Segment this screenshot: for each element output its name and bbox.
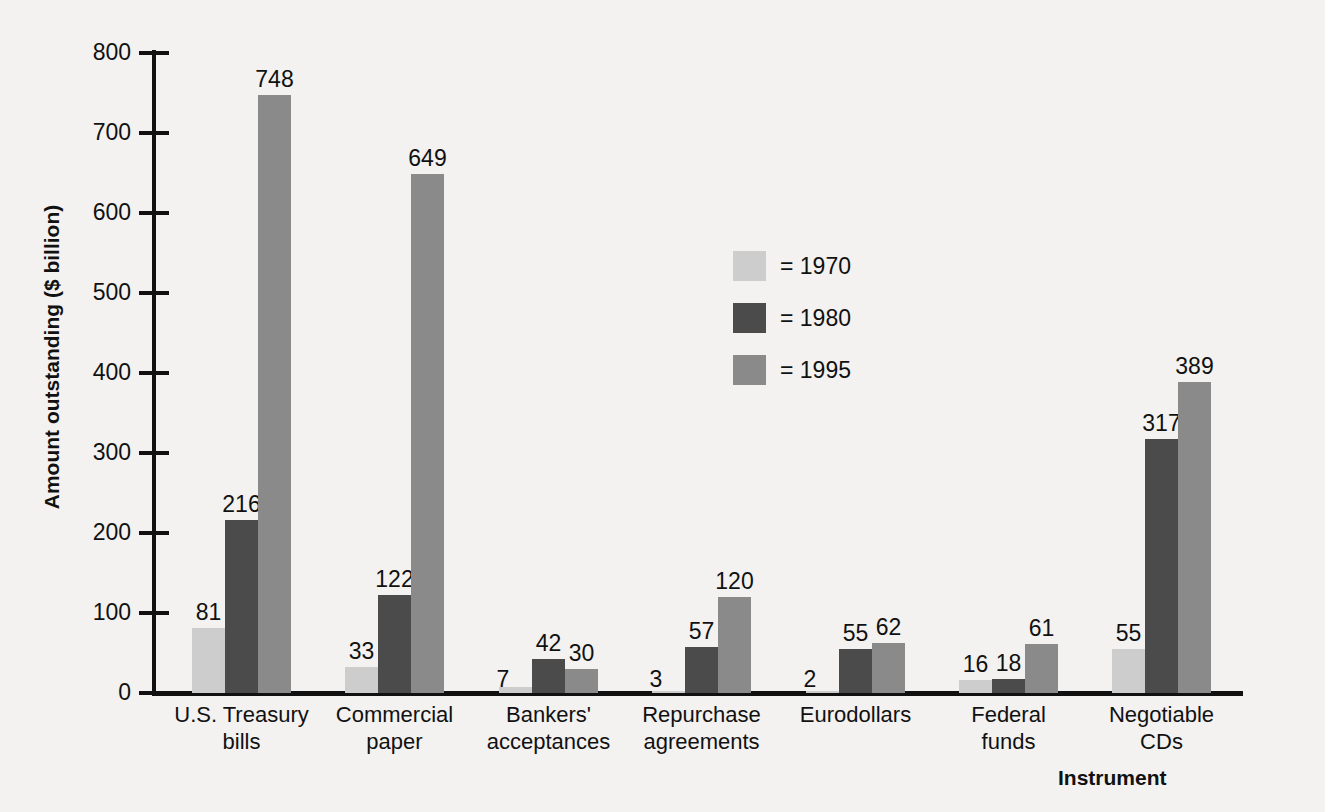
bar-group: 55317389 [1112, 53, 1211, 693]
bar-value-label: 57 [689, 620, 715, 643]
bar-value-label: 3 [650, 668, 663, 691]
bar-slot: 30 [565, 53, 598, 693]
legend-item[interactable]: = 1995 [733, 350, 851, 390]
bar[interactable] [1178, 382, 1211, 693]
bar-value-label: 62 [876, 616, 902, 639]
bar-value-label: 7 [497, 668, 510, 691]
bar-value-label: 216 [222, 493, 260, 516]
bar-slot: 122 [378, 53, 411, 693]
bar[interactable] [378, 595, 411, 693]
bar-slot: 7 [499, 53, 532, 693]
bar-slot: 389 [1178, 53, 1211, 693]
bar[interactable] [1145, 439, 1178, 693]
legend-label: = 1980 [780, 305, 851, 332]
bar-slot: 18 [992, 53, 1025, 693]
bar-value-label: 30 [569, 642, 595, 665]
bar[interactable] [959, 680, 992, 693]
bar-group: 74230 [499, 53, 598, 693]
bar-slot: 62 [872, 53, 905, 693]
chart-legend: = 1970= 1980= 1995 [733, 246, 851, 402]
bar[interactable] [718, 597, 751, 693]
bar-slot: 16 [959, 53, 992, 693]
bar-slot: 57 [685, 53, 718, 693]
bar-value-label: 81 [196, 601, 222, 624]
bar-value-label: 748 [255, 68, 293, 91]
legend-item[interactable]: = 1980 [733, 298, 851, 338]
bar-slot: 216 [225, 53, 258, 693]
bar[interactable] [345, 667, 378, 693]
bar-value-label: 122 [375, 568, 413, 591]
bar-slot: 649 [411, 53, 444, 693]
legend-item[interactable]: = 1970 [733, 246, 851, 286]
bar-slot: 33 [345, 53, 378, 693]
bar-slot: 317 [1145, 53, 1178, 693]
bar-value-label: 61 [1029, 617, 1055, 640]
bar[interactable] [872, 643, 905, 693]
bar[interactable] [839, 649, 872, 693]
category-label-line: Negotiable [1062, 702, 1262, 729]
bar[interactable] [411, 174, 444, 693]
legend-swatch-icon [733, 251, 766, 281]
bar[interactable] [532, 659, 565, 693]
bar-value-label: 389 [1175, 355, 1213, 378]
bar[interactable] [685, 647, 718, 693]
legend-label: = 1970 [780, 253, 851, 280]
bar-slot: 81 [192, 53, 225, 693]
bar[interactable] [1112, 649, 1145, 693]
bar-value-label: 18 [996, 652, 1022, 675]
bar-value-label: 649 [408, 147, 446, 170]
bar-value-label: 317 [1142, 412, 1180, 435]
bar-slot: 42 [532, 53, 565, 693]
bar-value-label: 55 [843, 622, 869, 645]
bar-value-label: 2 [804, 668, 817, 691]
legend-swatch-icon [733, 355, 766, 385]
bar-group: 33122649 [345, 53, 444, 693]
bar-slot: 3 [652, 53, 685, 693]
bar-groups: 8121674833122649742303571202556216186155… [0, 0, 1325, 812]
bar[interactable] [565, 669, 598, 693]
chart-figure: Amount outstanding ($ billion) 010020030… [0, 0, 1325, 812]
bar-group: 161861 [959, 53, 1058, 693]
bar[interactable] [992, 679, 1025, 693]
bar[interactable] [1025, 644, 1058, 693]
x-axis-title: Instrument [1058, 766, 1167, 790]
legend-label: = 1995 [780, 357, 851, 384]
bar[interactable] [258, 95, 291, 693]
bar-slot: 55 [1112, 53, 1145, 693]
bar-group: 81216748 [192, 53, 291, 693]
bar-value-label: 55 [1116, 622, 1142, 645]
category-label-line: CDs [1062, 729, 1262, 756]
bar-value-label: 42 [536, 632, 562, 655]
bar-value-label: 16 [963, 653, 989, 676]
bar-slot: 61 [1025, 53, 1058, 693]
category-label-line: agreements [602, 729, 802, 756]
bar[interactable] [192, 628, 225, 693]
legend-swatch-icon [733, 303, 766, 333]
bar-value-label: 120 [715, 570, 753, 593]
x-axis-category-label: NegotiableCDs [1062, 702, 1262, 756]
bar-slot: 748 [258, 53, 291, 693]
bar[interactable] [225, 520, 258, 693]
bar-value-label: 33 [349, 640, 375, 663]
